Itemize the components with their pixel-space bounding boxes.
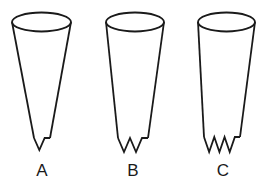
cone-a-jagged-bottom	[34, 138, 50, 150]
cone-b-left-wall	[106, 22, 118, 138]
cone-c-rim-ellipse	[198, 13, 255, 32]
cone-a-label: A	[36, 161, 48, 180]
cone-a-rim-ellipse	[12, 13, 71, 32]
cone-b-rim-ellipse	[106, 13, 164, 32]
cones-diagram: ABC	[0, 0, 264, 183]
cone-b-jagged-bottom	[118, 138, 148, 152]
cone-b	[106, 13, 164, 153]
cone-c-left-wall	[198, 22, 204, 137]
diagram-canvas: ABC	[0, 0, 264, 183]
cone-c-label: C	[217, 161, 229, 180]
cone-a-left-wall	[12, 22, 34, 138]
cone-b-label: B	[127, 161, 138, 180]
cone-a-right-wall	[50, 22, 71, 138]
cone-c-right-wall	[240, 22, 255, 137]
cone-c-jagged-bottom	[204, 137, 240, 152]
cone-a	[12, 13, 71, 151]
cone-c	[198, 13, 255, 153]
cone-b-right-wall	[148, 22, 164, 138]
